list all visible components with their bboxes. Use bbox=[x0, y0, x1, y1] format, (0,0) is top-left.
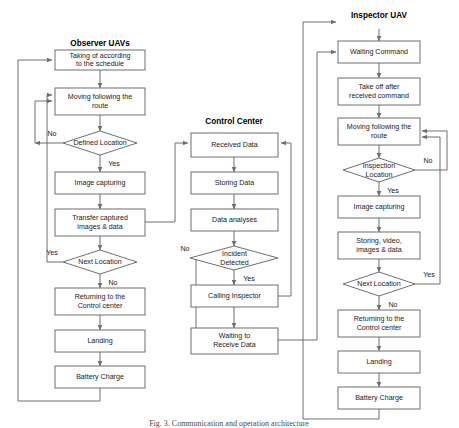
node-observer-moving-route[interactable]: Moving following the route bbox=[55, 88, 145, 115]
node-label: Storing Data bbox=[215, 179, 254, 187]
node-label-line2: route bbox=[92, 102, 108, 110]
figure-caption: Fig. 3. Communication and operation arch… bbox=[149, 419, 309, 428]
decision-inspector-next-location[interactable]: Next Location bbox=[343, 272, 415, 296]
node-observer-landing[interactable]: Landing bbox=[55, 330, 145, 352]
node-label-line1: Returning to the bbox=[75, 293, 126, 301]
node-label: Landing bbox=[87, 337, 112, 345]
node-observer-battery-charge[interactable]: Battery Charge bbox=[55, 366, 145, 388]
decision-label: Next Location bbox=[78, 258, 121, 266]
node-inspector-landing[interactable]: Landing bbox=[338, 351, 420, 373]
node-label: Data analyses bbox=[212, 216, 257, 224]
node-label-line1: Returning to the bbox=[354, 315, 405, 323]
node-waiting-command[interactable]: Waiting Command bbox=[338, 41, 420, 63]
edge-label-defined-no: No bbox=[47, 130, 56, 138]
edge-label-defined-yes: Yes bbox=[108, 160, 120, 168]
edge-label-inspection-yes: Yes bbox=[387, 187, 399, 195]
node-label: Battery Charge bbox=[76, 373, 124, 381]
decision-label-line1: Inspection bbox=[363, 162, 395, 170]
decision-label-line2: Detected bbox=[220, 259, 248, 267]
node-inspector-image-capturing[interactable]: Image capturing bbox=[338, 196, 420, 218]
node-calling-inspector[interactable]: Calling Inspector bbox=[191, 285, 278, 307]
decision-label-line2: Location bbox=[366, 171, 393, 179]
node-label-line1: Taking of according bbox=[69, 52, 130, 60]
node-label-line1: Waiting to bbox=[219, 332, 250, 340]
node-label-line2: Control center bbox=[357, 324, 402, 332]
edge-label-incident-yes: Yes bbox=[243, 275, 255, 283]
node-label: Battery Charge bbox=[355, 394, 403, 402]
control-nodes: Received Data Storing Data Data analyses… bbox=[180, 133, 278, 354]
edge-label-inspector-next-no: No bbox=[388, 301, 397, 309]
node-label-line1: Storing, video, bbox=[356, 237, 401, 245]
figure-canvas: Observer UAVs Control Center Inspector U… bbox=[0, 0, 459, 428]
node-inspector-moving-route[interactable]: Moving following the route bbox=[338, 118, 420, 145]
node-inspector-returning-control-center[interactable]: Returning to the Control center bbox=[338, 310, 420, 337]
decision-label: Defined Location bbox=[73, 139, 126, 147]
edge-label-inspector-next-yes: Yes bbox=[423, 271, 435, 279]
node-label-line2: to the schedule bbox=[76, 60, 124, 68]
node-waiting-to-receive-data[interactable]: Waiting to Receive Data bbox=[191, 328, 278, 354]
node-observer-image-capturing[interactable]: Image capturing bbox=[55, 172, 145, 194]
decision-inspection-location[interactable]: Inspection Location bbox=[343, 158, 415, 182]
decision-defined-location[interactable]: Defined Location bbox=[63, 131, 137, 155]
inspector-column-title: Inspector UAV bbox=[351, 11, 407, 20]
edge-label-next-no: No bbox=[108, 279, 117, 287]
node-label-line2: Receive Data bbox=[213, 341, 256, 349]
decision-label-line1: Incident bbox=[222, 250, 247, 258]
flowchart-svg: Observer UAVs Control Center Inspector U… bbox=[0, 0, 459, 428]
node-label-line2: images & data bbox=[77, 223, 122, 231]
edge-label-inspection-no: No bbox=[423, 157, 432, 165]
edge-label-incident-no: No bbox=[180, 245, 189, 253]
node-label: Calling Inspector bbox=[208, 292, 261, 300]
control-column-title: Control Center bbox=[205, 117, 263, 126]
node-label-line1: Moving following the bbox=[347, 123, 411, 131]
node-label: Image capturing bbox=[354, 203, 405, 211]
node-label: Landing bbox=[366, 358, 391, 366]
observer-nodes: Taking of according to the schedule Movi… bbox=[46, 50, 145, 388]
node-label: Image capturing bbox=[75, 179, 126, 187]
node-label-line2: received command bbox=[349, 92, 409, 100]
node-storing-data[interactable]: Storing Data bbox=[191, 172, 278, 194]
node-label-line1: Transfer captured bbox=[72, 214, 128, 222]
node-label-line1: Moving following the bbox=[68, 93, 132, 101]
node-data-analyses[interactable]: Data analyses bbox=[191, 209, 278, 231]
edge-label-next-yes: Yes bbox=[46, 249, 58, 257]
node-label-line2: images & data bbox=[356, 246, 401, 254]
decision-label: Next Location bbox=[357, 280, 400, 288]
node-inspector-battery-charge[interactable]: Battery Charge bbox=[338, 387, 420, 409]
node-observer-returning-control-center[interactable]: Returning to the Control center bbox=[55, 288, 145, 315]
node-label: Received Data bbox=[211, 141, 258, 149]
decision-observer-next-location[interactable]: Next Location bbox=[63, 250, 137, 274]
observer-column-title: Observer UAVs bbox=[70, 39, 130, 48]
node-label-line1: Take off after bbox=[359, 83, 401, 91]
inspector-nodes: Waiting Command Take off after received … bbox=[338, 41, 435, 409]
node-label-line2: route bbox=[371, 132, 387, 140]
node-received-data[interactable]: Received Data bbox=[191, 133, 278, 157]
decision-incident-detected[interactable]: Incident Detected bbox=[190, 246, 278, 270]
node-taking-off-schedule[interactable]: Taking of according to the schedule bbox=[55, 50, 145, 70]
node-take-off-after-command[interactable]: Take off after received command bbox=[338, 78, 420, 105]
node-label: Waiting Command bbox=[350, 48, 408, 56]
node-storing-video-images-data[interactable]: Storing, video, images & data bbox=[338, 232, 420, 259]
node-transfer-captured-images[interactable]: Transfer captured images & data bbox=[55, 209, 145, 236]
node-label-line2: Control center bbox=[78, 302, 123, 310]
